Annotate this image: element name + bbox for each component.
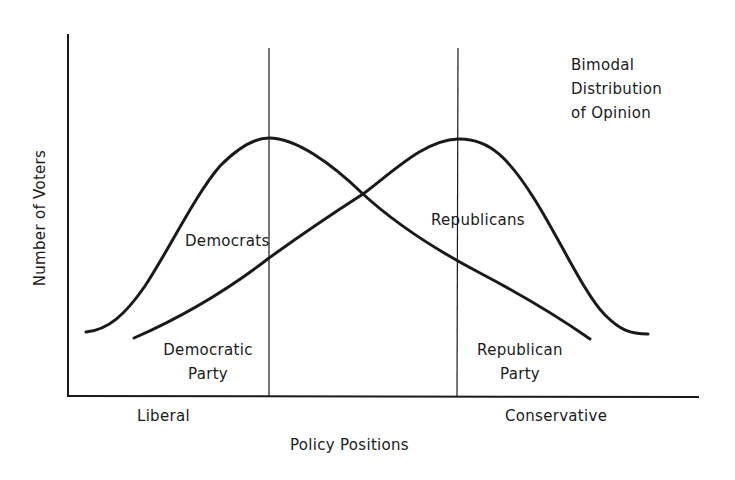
x-tick-liberal: Liberal: [137, 407, 190, 425]
x-tick-conservative: Conservative: [505, 407, 607, 425]
democratic-party-label-line-2: Party: [158, 365, 258, 383]
chart-title-line-3: of Opinion: [571, 104, 651, 122]
republican-party-label-line-2: Party: [470, 365, 570, 383]
x-axis-label: Policy Positions: [290, 436, 409, 454]
republican-party-label: Republican Party: [470, 341, 570, 383]
democrats-label: Democrats: [185, 232, 270, 250]
republican-party-label-line-1: Republican: [470, 341, 570, 359]
x-axis: [67, 396, 699, 397]
republicans-label: Republicans: [431, 211, 525, 229]
democratic-party-label: Democratic Party: [158, 341, 258, 383]
democratic-party-label-line-1: Democratic: [158, 341, 258, 359]
chart-title-line-2: Distribution: [571, 80, 662, 98]
y-axis-label: Number of Voters: [31, 150, 49, 286]
chart-title-line-1: Bimodal: [571, 56, 634, 74]
